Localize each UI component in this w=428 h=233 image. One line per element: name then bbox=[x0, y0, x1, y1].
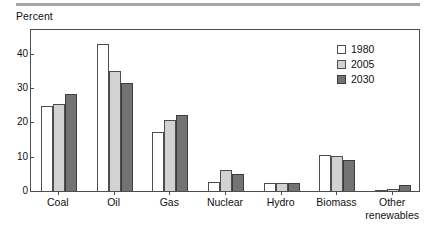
top-rule-divider bbox=[16, 3, 420, 6]
bar bbox=[264, 183, 276, 191]
x-axis-category-label: Nuclear bbox=[207, 196, 243, 209]
chart-legend: 198020052030 bbox=[337, 43, 374, 88]
x-axis-category-label: Oil bbox=[107, 196, 120, 209]
legend-item: 1980 bbox=[337, 43, 374, 56]
legend-label: 2030 bbox=[351, 74, 374, 85]
y-axis-tick-mark bbox=[30, 122, 34, 123]
y-axis-tick-label: 20 bbox=[2, 117, 28, 127]
y-axis-tick-mark bbox=[30, 88, 34, 89]
legend-swatch-icon bbox=[337, 75, 346, 84]
x-axis-category-label: Coal bbox=[47, 196, 69, 209]
bar bbox=[97, 44, 109, 191]
x-axis-category-label: Gas bbox=[160, 196, 179, 209]
bar bbox=[208, 182, 220, 191]
legend-swatch-icon bbox=[337, 60, 346, 69]
x-axis-tick-mark bbox=[225, 192, 226, 195]
bar bbox=[53, 104, 65, 191]
bar bbox=[41, 106, 53, 191]
bar bbox=[152, 132, 164, 191]
legend-label: 1980 bbox=[351, 44, 374, 55]
bar bbox=[65, 94, 77, 191]
bar bbox=[220, 170, 232, 191]
bar bbox=[331, 156, 343, 191]
bar bbox=[375, 190, 387, 191]
y-axis-tick-label: 30 bbox=[2, 83, 28, 93]
bar bbox=[109, 71, 121, 191]
bar bbox=[399, 185, 411, 191]
bar bbox=[288, 183, 300, 191]
x-axis-tick-mark bbox=[392, 192, 393, 195]
bar-group bbox=[254, 30, 310, 191]
x-axis-tick-mark bbox=[281, 192, 282, 195]
bar bbox=[276, 183, 288, 191]
bar bbox=[121, 83, 133, 191]
bar bbox=[319, 155, 331, 191]
x-axis-category-label: Hydro bbox=[267, 196, 295, 209]
bar bbox=[232, 174, 244, 191]
legend-item: 2005 bbox=[337, 58, 374, 71]
y-axis-tick-label: 10 bbox=[2, 152, 28, 162]
chart-figure: Percent 010203040 198020052030 CoalOilGa… bbox=[0, 0, 428, 233]
bar-group bbox=[198, 30, 254, 191]
legend-item: 2030 bbox=[337, 73, 374, 86]
x-axis-tick-mark bbox=[58, 192, 59, 195]
bar-group bbox=[142, 30, 198, 191]
bar-group bbox=[31, 30, 87, 191]
x-axis-category-label: Other renewables bbox=[365, 196, 419, 221]
bar-group bbox=[87, 30, 143, 191]
y-axis-tick-mark bbox=[30, 54, 34, 55]
bar bbox=[164, 120, 176, 191]
bar bbox=[176, 115, 188, 191]
legend-label: 2005 bbox=[351, 59, 374, 70]
x-axis-tick-mark bbox=[169, 192, 170, 195]
y-axis-tick-labels: 010203040 bbox=[0, 0, 28, 233]
x-axis-tick-mark bbox=[114, 192, 115, 195]
x-axis-tick-mark bbox=[336, 192, 337, 195]
y-axis-tick-label: 0 bbox=[2, 186, 28, 196]
y-axis-tick-mark bbox=[30, 157, 34, 158]
x-axis-category-label: Biomass bbox=[316, 196, 356, 209]
legend-swatch-icon bbox=[337, 45, 346, 54]
bar bbox=[343, 160, 355, 191]
bar bbox=[387, 189, 399, 191]
y-axis-tick-label: 40 bbox=[2, 49, 28, 59]
